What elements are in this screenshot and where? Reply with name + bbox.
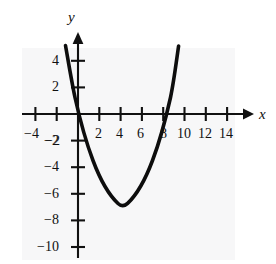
y-axis-arrow-icon <box>73 32 84 44</box>
y-tick-label-2: 2 <box>52 80 59 94</box>
x-tick-label-12: 12 <box>198 127 212 141</box>
y-tick-label-neg6: −6 <box>44 187 59 201</box>
y-tick-label-4: 4 <box>52 54 59 68</box>
y-tick-label-neg2: −2 <box>44 134 59 148</box>
x-tick-label-14: 14 <box>219 127 233 141</box>
y-tick-label-neg8: −8 <box>44 213 59 227</box>
x-tick-label-4: 4 <box>116 127 123 141</box>
y-tick-label-neg4: −4 <box>44 160 59 174</box>
x-tick-label-6: 6 <box>137 127 144 141</box>
x-tick-label-neg4: −4 <box>24 127 39 141</box>
y-tick-label-neg10: −10 <box>37 240 59 254</box>
x-tick-label-2: 2 <box>95 127 102 141</box>
x-axis-label: x <box>259 107 266 122</box>
y-axis-label: y <box>68 10 75 25</box>
x-tick-label-10: 10 <box>177 127 191 141</box>
x-axis-arrow-icon <box>243 109 254 120</box>
x-tick-label-8: 8 <box>160 127 167 141</box>
graph-figure: −4 −2 2 4 6 8 10 12 14 4 2 −2 −4 −6 −8 −… <box>0 0 276 264</box>
